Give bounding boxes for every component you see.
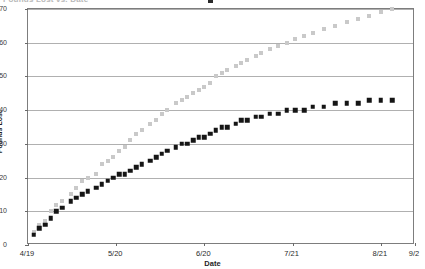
data-point [69, 192, 73, 196]
data-point [220, 71, 224, 75]
data-point [68, 199, 73, 204]
x-tick-label: 7/21 [284, 249, 299, 258]
data-point [148, 158, 153, 163]
data-point [154, 118, 158, 122]
y-tick-label: 0 [0, 241, 7, 248]
data-point [245, 118, 250, 123]
data-point [134, 165, 139, 170]
data-point [74, 196, 79, 201]
data-point [268, 111, 273, 116]
data-point [160, 112, 164, 116]
data-point [259, 51, 263, 55]
x-tick-label: 6/20 [196, 249, 211, 258]
data-point [214, 128, 219, 133]
gridline [28, 76, 413, 77]
data-point [49, 209, 53, 213]
data-point [111, 155, 115, 159]
x-tick [381, 243, 382, 246]
gridline [28, 110, 413, 111]
x-tick [204, 243, 205, 246]
data-point [54, 203, 58, 207]
data-point [111, 175, 116, 180]
data-point [37, 226, 42, 231]
data-point [367, 14, 371, 18]
data-point [105, 179, 110, 184]
y-tick [25, 76, 28, 77]
data-point [43, 223, 48, 228]
page-title: Pounds Lost vs. Date [3, 0, 88, 4]
data-point [219, 125, 224, 130]
data-point [379, 10, 383, 14]
y-axis-title: Pounds Lost [0, 111, 3, 153]
data-point [202, 135, 207, 140]
data-point [356, 101, 361, 106]
data-point [148, 122, 152, 126]
data-point [154, 155, 159, 160]
data-point [208, 81, 212, 85]
y-tick-label: 50 [0, 72, 7, 79]
data-point [123, 145, 127, 149]
x-axis-title: Date [0, 259, 425, 268]
y-tick-label: 10 [0, 207, 7, 214]
data-point [60, 199, 64, 203]
x-tick [28, 243, 29, 246]
x-tick-label: 9/2 [409, 249, 419, 258]
data-point [268, 47, 272, 51]
data-point [128, 169, 133, 174]
data-point [123, 172, 128, 177]
y-tick [25, 9, 28, 10]
gridline [28, 43, 413, 44]
data-point [208, 131, 213, 136]
data-point [367, 98, 372, 103]
data-point [54, 209, 59, 214]
y-tick [25, 43, 28, 44]
data-point [311, 31, 315, 35]
data-point [202, 85, 206, 89]
data-point [128, 138, 132, 142]
data-point [322, 27, 326, 31]
x-tick-label: 5/20 [108, 249, 123, 258]
data-point [106, 159, 110, 163]
data-point [100, 162, 104, 166]
data-point [180, 98, 184, 102]
data-point [191, 91, 195, 95]
data-point [310, 105, 315, 110]
y-tick [25, 110, 28, 111]
data-point [94, 185, 99, 190]
data-point [196, 135, 201, 140]
data-point [333, 24, 337, 28]
data-point [253, 115, 258, 120]
plot-area [27, 8, 414, 244]
data-point [239, 118, 244, 123]
data-point [74, 186, 78, 190]
data-point [245, 58, 249, 62]
data-point [185, 95, 189, 99]
y-tick-label: 70 [0, 5, 7, 12]
data-point [239, 61, 243, 65]
data-point [344, 101, 349, 106]
data-point [86, 176, 90, 180]
data-point [322, 105, 327, 110]
data-point [379, 98, 384, 103]
data-point [285, 41, 289, 45]
data-point [225, 125, 230, 130]
filled-square-marker-icon [208, 0, 213, 3]
data-point [191, 138, 196, 143]
data-point [117, 149, 121, 153]
data-point [140, 128, 144, 132]
data-point [285, 108, 290, 113]
y-tick [25, 211, 28, 212]
data-point [214, 74, 218, 78]
y-tick [25, 144, 28, 145]
data-point [302, 34, 306, 38]
gridline [28, 9, 413, 10]
data-point [197, 88, 201, 92]
x-tick [116, 243, 117, 246]
data-point [80, 179, 84, 183]
data-point [333, 101, 338, 106]
x-tick [415, 243, 416, 246]
data-point [356, 17, 360, 21]
data-point [179, 142, 184, 147]
data-point [259, 115, 264, 120]
gridline [28, 211, 413, 212]
